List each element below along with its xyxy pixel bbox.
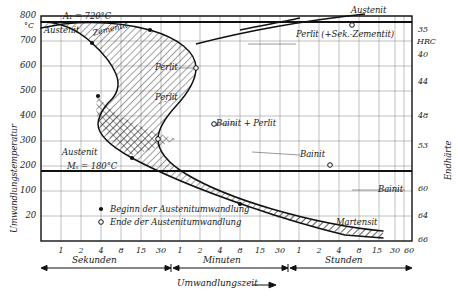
- region-austenit-top: Austenit: [44, 26, 79, 35]
- x-tick-m-15: 15: [250, 247, 270, 255]
- x-tick-s-8: 8: [111, 247, 131, 255]
- x-group-stunden: Stunden: [325, 256, 363, 265]
- x-tick-h-2: 2: [309, 247, 329, 255]
- y2-tick-66: 66: [418, 236, 428, 244]
- region-bainit-1: Bainit: [300, 150, 325, 159]
- x-tick-h-15: 15: [367, 247, 387, 255]
- y-axis-unit: °C: [24, 22, 34, 30]
- y2-tick-53: 53: [418, 142, 428, 150]
- x-group-sekunden: Sekunden: [72, 256, 117, 265]
- x-tick-s-15: 15: [131, 247, 151, 255]
- y2-tick-44: 44: [418, 78, 428, 86]
- a1-line-label: A₁ = 720°C: [63, 12, 111, 21]
- ms-line-label-text: Mₓ = 180°C: [67, 161, 117, 171]
- x-tick-s-2: 2: [71, 247, 91, 255]
- y-axis-title: Umwandlungstemperatur: [10, 124, 19, 233]
- x-tick-m-1: 1: [170, 247, 190, 255]
- x-tick-m-30: 30: [270, 247, 290, 255]
- x-tick-s-4: 4: [91, 247, 111, 255]
- y2-tick-40: 40: [418, 51, 428, 59]
- x-tick-h-60: 60: [399, 247, 419, 255]
- region-perlit-2: Perlit: [155, 93, 178, 102]
- y-tick-500: 500: [10, 86, 36, 95]
- y-tick-400: 400: [10, 111, 36, 120]
- a1-line-label-text: A₁ = 720°C: [63, 11, 111, 21]
- region-martensit: Martensit: [336, 218, 377, 227]
- region-perlit-sek-zementit: Perlit (+Sek.-Zementit): [296, 30, 394, 39]
- y-tick-600: 600: [10, 61, 36, 70]
- x-tick-h-8: 8: [349, 247, 369, 255]
- y2-tick-60: 60: [418, 185, 428, 193]
- legend-filled-dot-icon: [99, 207, 103, 211]
- region-austenit-upper-right: Austenit: [351, 6, 386, 15]
- legend-item-beginn: Beginn der Austenitumwandlung: [110, 205, 249, 214]
- x-tick-m-8: 8: [230, 247, 250, 255]
- region-austenit-lower: Austenit: [62, 148, 97, 157]
- x-tick-s-1: 1: [51, 247, 71, 255]
- y2-tick-64: 64: [418, 212, 428, 220]
- x-axis-title: Umwandlungszeit: [177, 279, 258, 288]
- x-tick-m-2: 2: [190, 247, 210, 255]
- x-group-range-arrows: [41, 264, 412, 272]
- y2-axis-unit: HRC: [417, 38, 436, 46]
- x-tick-s-30: 30: [151, 247, 171, 255]
- region-perlit-1: Perlit: [155, 63, 178, 72]
- region-bainit-perlit: Bainit + Perlit: [216, 119, 276, 128]
- legend-open-dot-icon: [99, 220, 104, 225]
- y2-tick-35: 35: [418, 26, 428, 34]
- x-tick-h-4: 4: [329, 247, 349, 255]
- legend-item-ende: Ende der Austenitumwandlung: [110, 218, 241, 227]
- y2-axis-title: Endhärte: [444, 141, 453, 180]
- x-tick-m-4: 4: [210, 247, 230, 255]
- y-tick-800: 800: [10, 11, 36, 20]
- region-bainit-2: Bainit: [378, 185, 403, 194]
- x-tick-h-1: 1: [289, 247, 309, 255]
- y-tick-700: 700: [10, 36, 36, 45]
- y2-tick-48: 48: [418, 112, 428, 120]
- ztu-diagram-figure: 800 °C 700 600 500 400 300 200 100 20 Um…: [0, 0, 458, 297]
- ms-line-label: Mₓ = 180°C: [67, 162, 117, 171]
- x-group-minuten: Minuten: [203, 256, 241, 265]
